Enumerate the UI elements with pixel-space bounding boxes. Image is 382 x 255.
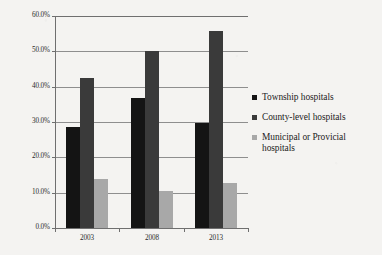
y-tick-label: 40.0% [8,82,50,90]
y-tick-label: 20.0% [8,152,50,160]
x-tick-mark [184,228,185,232]
bar-2013-series-2 [223,183,237,228]
bar-2013-series-0 [195,123,209,228]
bar-2008-series-0 [131,98,145,228]
bar-2003-series-1 [80,78,94,228]
x-tick-mark [119,228,120,232]
y-tick-label: 10.0% [8,188,50,196]
legend-item-1[interactable]: County-level hospitals [252,112,380,123]
bar-2003-series-0 [66,127,80,228]
legend-item-0[interactable]: Township hospitals [252,92,380,103]
bar-2013-series-1 [209,31,223,228]
x-tick-label-2013: 2013 [196,234,236,242]
y-tick-label: 30.0% [8,117,50,125]
chart-legend: Township hospitalsCounty-level hospitals… [252,92,380,163]
bar-2008-series-2 [159,191,173,228]
y-tick-label: 50.0% [8,46,50,54]
y-tick-label: 60.0% [8,11,50,19]
legend-swatch-icon [252,115,257,120]
x-tick-label-2008: 2008 [132,234,172,242]
gridline-0.0% [55,228,248,229]
x-tick-mark [55,228,56,232]
bar-2008-series-1 [145,51,159,228]
bar-chart: 0.0%10.0%20.0%30.0%40.0%50.0%60.0% 20032… [0,0,382,255]
x-tick-label-2003: 2003 [67,234,107,242]
legend-item-label: Township hospitals [262,92,334,103]
legend-item-label: County-level hospitals [262,112,346,123]
x-tick-mark [248,228,249,232]
bar-2003-series-2 [94,179,108,228]
plot-area [55,16,248,228]
legend-swatch-icon [252,95,257,100]
legend-swatch-icon [252,135,257,140]
y-tick-label: 0.0% [8,223,50,231]
legend-item-2[interactable]: Municipal or Provicial hospitals [252,132,380,154]
legend-item-label: Municipal or Provicial hospitals [262,132,380,154]
